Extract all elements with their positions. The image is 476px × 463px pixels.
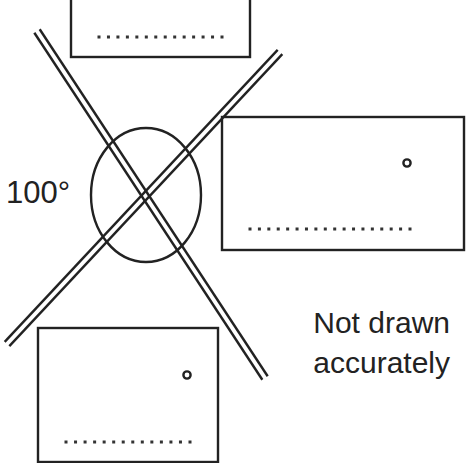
top-answer-box[interactable]	[71, 0, 250, 57]
note-line-1: Not drawn	[313, 306, 450, 339]
right-answer-box[interactable]	[222, 117, 464, 250]
degree-symbol-icon	[183, 371, 190, 378]
answer-box-frame	[71, 0, 250, 57]
answer-boxes	[38, 0, 464, 462]
angle-label: 100°	[6, 175, 70, 210]
answer-dotted-line	[98, 36, 224, 39]
angle-diagram: 100° Not drawn accurately	[0, 0, 476, 463]
answer-dotted-line	[249, 228, 412, 231]
degree-symbol-icon	[403, 159, 410, 166]
bottom-answer-box[interactable]	[38, 328, 218, 462]
angle-circle	[91, 128, 201, 262]
note-line-2: accurately	[313, 346, 450, 379]
answer-dotted-line	[65, 441, 192, 444]
